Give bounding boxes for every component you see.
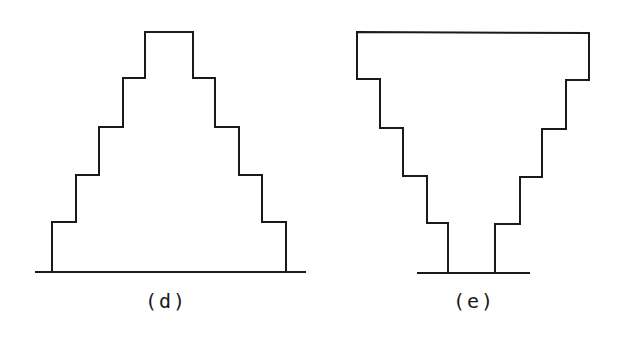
figure-e: (e) (357, 32, 589, 313)
figure-label-e: (e) (453, 289, 495, 313)
figure-d: (d) (35, 32, 306, 313)
figure-label-d: (d) (145, 289, 187, 313)
inverted-stepped-pyramid-outline (357, 32, 589, 273)
stepped-profiles-diagram: (d) (e) (0, 0, 623, 341)
stepped-pyramid-outline (52, 32, 286, 272)
